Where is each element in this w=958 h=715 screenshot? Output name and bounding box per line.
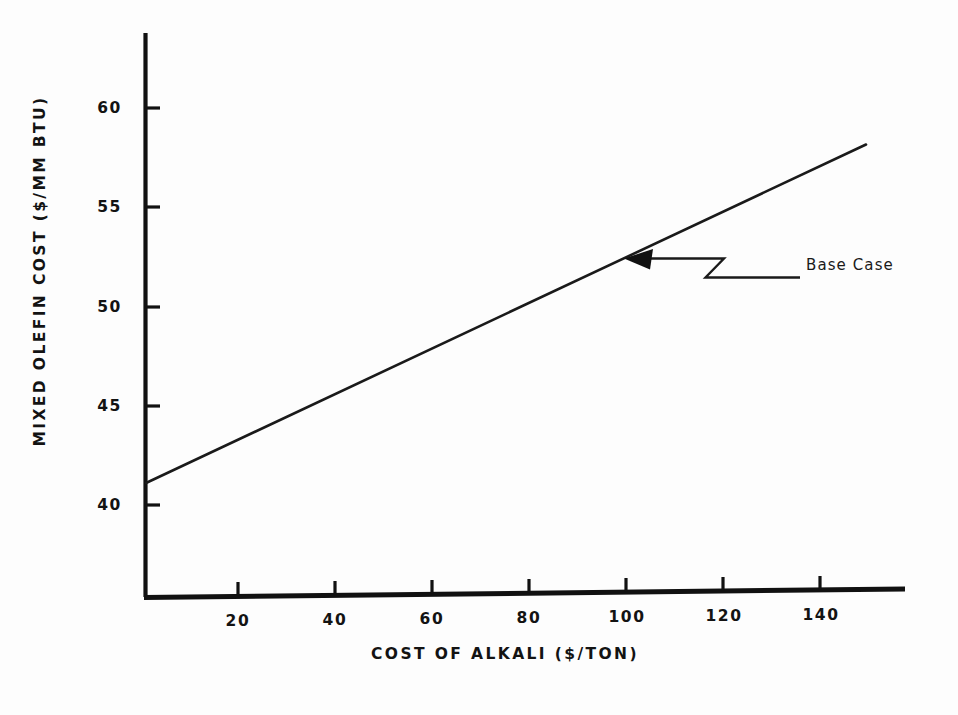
y-tick-label-60: 60: [72, 99, 122, 117]
x-tick-label-40: 40: [323, 611, 348, 629]
annotation-base-case-label: Base Case: [806, 256, 894, 274]
y-tick-label-40: 40: [72, 496, 122, 514]
x-tick-label-20: 20: [226, 612, 251, 630]
y-tick-label-55: 55: [72, 198, 122, 216]
y-tick-label-45: 45: [72, 397, 122, 415]
x-tick-label-100: 100: [608, 608, 645, 626]
x-axis-label: COST OF ALKALI ($/TON): [145, 645, 865, 663]
chart-figure: 60 55 50 45 40 20 40 60 80 100 120 140 M…: [0, 0, 958, 715]
x-axis-line: [144, 589, 905, 598]
x-tick-label-80: 80: [517, 609, 542, 627]
y-axis-ticks: [147, 108, 160, 505]
y-tick-label-50: 50: [72, 298, 122, 316]
y-axis-label-wrapper: MIXED OLEFIN COST ($/MM BTU): [0, 0, 70, 560]
y-axis-label: MIXED OLEFIN COST ($/MM BTU): [31, 41, 49, 501]
x-tick-label-120: 120: [705, 607, 742, 625]
annotation-leader: [631, 259, 800, 278]
data-series-line: [146, 145, 866, 484]
x-tick-label-60: 60: [420, 610, 445, 628]
x-tick-label-140: 140: [802, 606, 839, 624]
